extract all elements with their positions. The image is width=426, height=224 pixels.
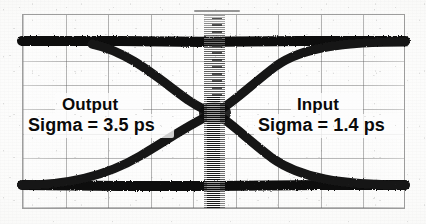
center-dashed-marker bbox=[212, 18, 222, 96]
input-label: Input bbox=[297, 95, 339, 115]
top-reference-tick-mark bbox=[194, 10, 240, 12]
output-label: Output bbox=[62, 95, 118, 115]
eye-diagram-screenshot: Output Sigma = 3.5 ps Input Sigma = 1.4 … bbox=[0, 0, 426, 224]
jitter-histogram-core bbox=[207, 96, 220, 208]
input-sigma-measurement: Sigma = 1.4 ps bbox=[258, 115, 385, 136]
output-sigma-measurement: Sigma = 3.5 ps bbox=[28, 115, 155, 136]
